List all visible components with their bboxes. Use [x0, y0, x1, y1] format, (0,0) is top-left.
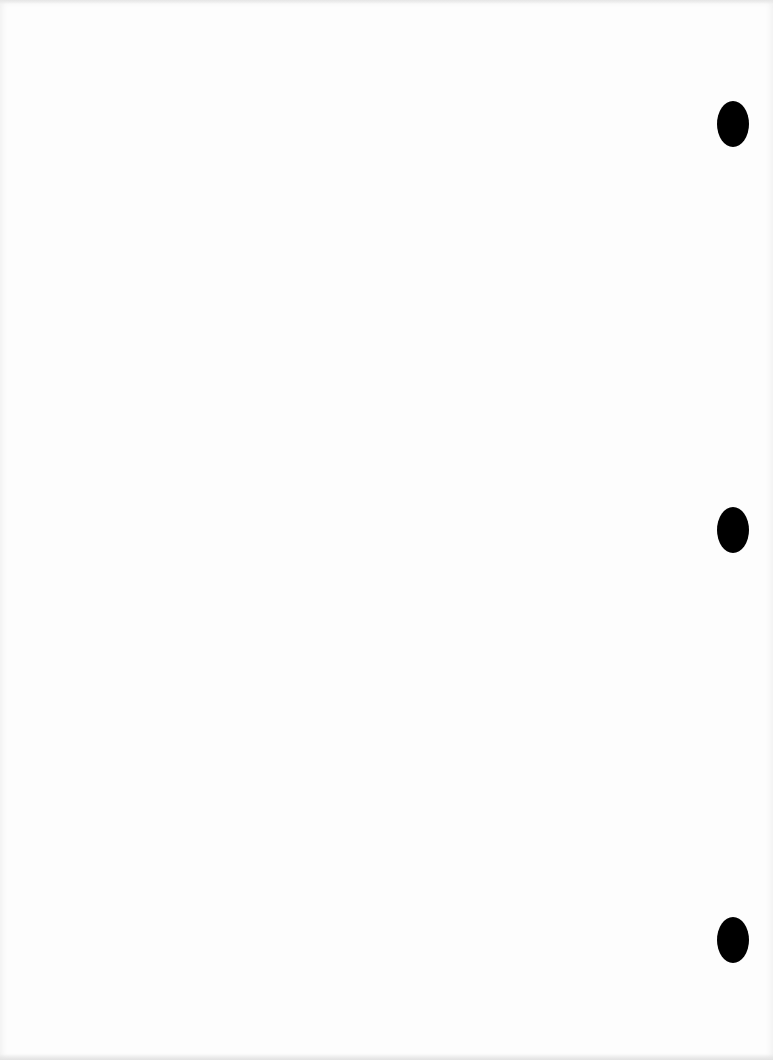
- punch-hole-middle: [717, 507, 749, 553]
- punch-hole-top: [717, 101, 749, 147]
- blank-page: [0, 0, 773, 1060]
- punch-hole-bottom: [717, 917, 749, 963]
- page-bottom-edge: [0, 1054, 773, 1060]
- page-top-edge: [0, 0, 773, 4]
